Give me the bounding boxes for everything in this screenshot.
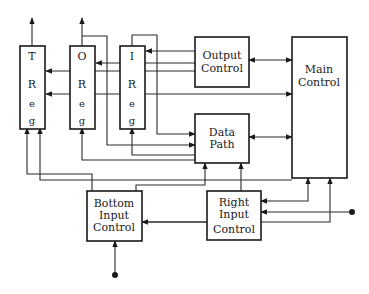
block-label: Input (219, 208, 250, 221)
o-reg-letter: O (77, 50, 86, 63)
block-label: Main (305, 63, 333, 76)
reg-letter: e (129, 98, 135, 109)
treg-wire-2 (40, 128, 292, 180)
block-diagram: T R e g O R e g I R e g Output Control M… (0, 0, 369, 294)
reg-letter: g (29, 115, 36, 126)
t-register: T R e g (20, 46, 45, 129)
bottom-input-terminal (112, 272, 118, 278)
right-input-terminal (349, 209, 355, 215)
reg-letter: R (128, 78, 137, 91)
reg-letter: e (79, 98, 85, 109)
block-label: Control (93, 221, 135, 234)
i-reg-letter: I (130, 50, 134, 63)
bottom-input-control-block: Bottom Input Control (87, 191, 142, 241)
block-label: Control (201, 62, 243, 75)
reg-letter: g (79, 115, 86, 126)
block-label: Output (202, 49, 242, 62)
block-label: Path (210, 138, 235, 151)
reg-letter: R (78, 78, 87, 91)
main-right-wire (261, 178, 308, 201)
bottom-to-datapath-wire (136, 163, 205, 191)
output-control-block: Output Control (195, 37, 249, 87)
o-register: O R e g (70, 46, 95, 129)
reg-letter: e (29, 98, 35, 109)
data-path-block: Data Path (195, 114, 249, 163)
right-input-control-block: Right Input Control (207, 191, 261, 240)
block-label: Control (298, 76, 340, 89)
reg-letter: g (129, 115, 136, 126)
datapath-to-ireg-wire (132, 128, 195, 155)
block-label: Control (213, 223, 255, 236)
reg-letter: R (28, 78, 37, 91)
t-reg-letter: T (28, 50, 36, 63)
i-register: I R e g (120, 46, 145, 129)
main-control-block: Main Control (292, 37, 347, 178)
